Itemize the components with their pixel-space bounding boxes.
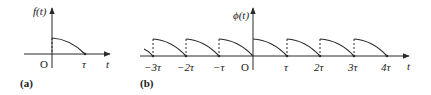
periodic-segment	[186, 39, 219, 56]
x-axis-label: t	[407, 60, 411, 72]
y-axis-label: ϕ(t)	[233, 9, 249, 22]
tick-label: 4τ	[381, 61, 392, 73]
tick-label: 2τ	[314, 61, 325, 73]
caption-a: (a)	[20, 77, 33, 90]
origin-label: O	[40, 58, 48, 70]
origin-label: O	[241, 61, 249, 73]
tick-label: −3τ	[144, 61, 162, 73]
tick-label: τ	[284, 61, 289, 73]
y-axis-label: f(t)	[33, 5, 47, 18]
periodic-segment	[354, 39, 387, 56]
x-axis-label: t	[106, 58, 110, 70]
panel-a: f(t) O τ t (a)	[20, 5, 110, 90]
periodic-segment	[287, 39, 320, 56]
pulse-curve	[52, 38, 85, 54]
figure: f(t) O τ t (a)	[0, 0, 431, 95]
tick-label: −2τ	[177, 61, 195, 73]
partial-segment	[144, 49, 153, 56]
tick-label: 3τ	[347, 61, 359, 73]
periodic-segment	[253, 39, 287, 56]
tick-label: −τ	[213, 61, 225, 73]
periodic-segment	[320, 39, 354, 56]
panel-b: ϕ(t) O −3τ −2τ −τ τ 2τ 3τ 4τ t (b)	[140, 8, 411, 90]
caption-b: (b)	[140, 77, 154, 90]
periodic-segment	[219, 39, 253, 56]
periodic-segment	[153, 39, 186, 56]
tick-label-tau: τ	[82, 58, 87, 70]
